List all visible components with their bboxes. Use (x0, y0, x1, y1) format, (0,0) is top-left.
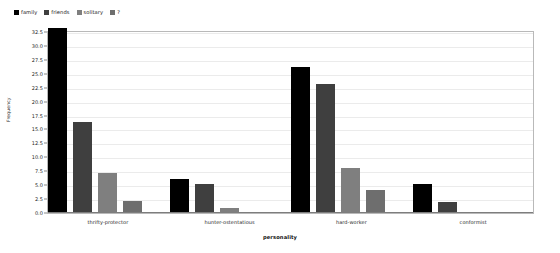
bar-unknown[interactable] (366, 190, 385, 212)
axis-baseline (48, 212, 533, 213)
bar-family[interactable] (48, 28, 67, 212)
bar-unknown[interactable] (123, 201, 142, 212)
legend-swatch-icon (14, 10, 19, 15)
chart-legend: familyfriendssolitary? (14, 10, 120, 15)
bar-friends[interactable] (195, 184, 214, 212)
y-axis-tick-label: 7.5 (35, 168, 43, 174)
bar-friends[interactable] (438, 202, 457, 212)
legend-entry-unknown[interactable]: ? (110, 10, 120, 15)
y-axis: 32.530.027.525.022.520.017.515.012.510.0… (0, 31, 47, 214)
x-axis-tick-label: hard-worker (336, 219, 367, 225)
bar-family[interactable] (291, 67, 310, 212)
bar-group (291, 31, 385, 212)
bar-friends[interactable] (73, 122, 92, 212)
legend-label: family (21, 10, 37, 15)
y-axis-tick-label: 5.0 (35, 182, 43, 188)
legend-label: ? (117, 10, 120, 15)
bar-group (413, 31, 507, 212)
bar-chart: familyfriendssolitary? 32.530.027.525.02… (0, 0, 560, 253)
y-axis-tick-label: 12.5 (32, 140, 43, 146)
bar-friends[interactable] (316, 84, 335, 212)
y-axis-tick-label: 27.5 (32, 57, 43, 63)
y-axis-tick-label: 15.0 (32, 126, 43, 132)
y-axis-tick-label: 2.5 (35, 196, 43, 202)
legend-swatch-icon (44, 10, 49, 15)
x-axis-title: personality (0, 234, 560, 240)
y-axis-tick-label: 0.0 (35, 210, 43, 216)
x-axis-tick-label: conformist (460, 219, 487, 225)
legend-label: friends (51, 10, 69, 15)
bar-group (170, 31, 264, 212)
plot-area (47, 31, 534, 214)
y-axis-tick-label: 22.5 (32, 85, 43, 91)
legend-swatch-icon (110, 10, 115, 15)
legend-entry-friends[interactable]: friends (44, 10, 69, 15)
x-axis: thrifty-protectorhunter-ostentatioushard… (47, 219, 534, 233)
bar-solitary[interactable] (98, 173, 117, 212)
y-axis-tick-label: 20.0 (32, 99, 43, 105)
legend-entry-solitary[interactable]: solitary (77, 10, 104, 15)
x-axis-tick-label: hunter-ostentatious (205, 219, 255, 225)
y-axis-title: Frequency (6, 97, 11, 122)
bar-solitary[interactable] (341, 168, 360, 212)
y-axis-tick-label: 17.5 (32, 113, 43, 119)
bar-group (48, 31, 142, 212)
legend-swatch-icon (77, 10, 82, 15)
y-axis-tick-label: 25.0 (32, 71, 43, 77)
y-axis-tick-label: 10.0 (32, 154, 43, 160)
bar-family[interactable] (170, 179, 189, 212)
bars-layer (48, 32, 533, 213)
legend-entry-family[interactable]: family (14, 10, 37, 15)
x-axis-tick-label: thrifty-protector (87, 219, 128, 225)
y-axis-tick-label: 30.0 (32, 43, 43, 49)
bar-family[interactable] (413, 184, 432, 212)
legend-label: solitary (84, 10, 104, 15)
y-axis-tick-label: 32.5 (32, 29, 43, 35)
